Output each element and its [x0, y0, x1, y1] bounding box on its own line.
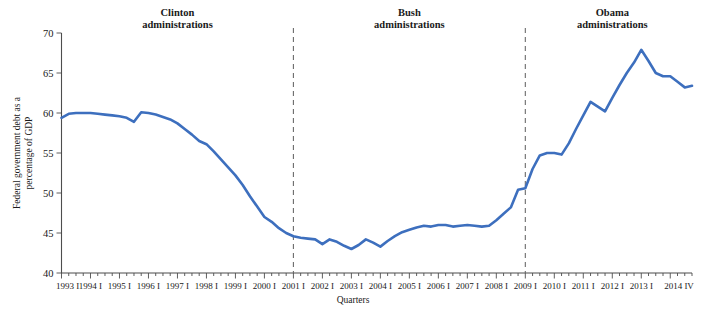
- x-tick-label: 1993 I: [56, 281, 79, 291]
- y-axis-title-line: percentage of GDP: [24, 117, 34, 190]
- y-tick-label: 45: [43, 228, 54, 239]
- x-tick-label: 2007 I: [456, 281, 479, 291]
- x-tick-label: 2003 I: [340, 281, 363, 291]
- x-tick-label: 2000 I: [253, 281, 276, 291]
- debt-series-line: [62, 50, 693, 249]
- y-tick-label: 40: [43, 268, 54, 279]
- x-tick-label: 2005 I: [398, 281, 421, 291]
- x-tick-label: 2011 I: [572, 281, 595, 291]
- administration-dividers: [293, 28, 525, 273]
- admin-label-clinton: Clinton: [161, 7, 195, 18]
- x-axis-title: Quarters: [337, 295, 370, 305]
- y-tick-label: 60: [43, 108, 54, 119]
- x-tick-label: 1998 I: [195, 281, 218, 291]
- admin-label-obama: Obama: [596, 7, 630, 18]
- x-tick-label: 1996 I: [137, 281, 160, 291]
- y-tick-label: 55: [43, 148, 54, 159]
- y-tick-label: 50: [43, 188, 54, 199]
- admin-label-bush: Bush: [398, 7, 421, 18]
- admin-label-bush: administrations: [374, 19, 445, 30]
- y-tick-label: 65: [43, 68, 54, 79]
- x-tick-label: 2010 I: [543, 281, 566, 291]
- line-chart: Federal government debt as apercentage o…: [0, 0, 707, 316]
- x-tick-label: 2008 I: [485, 281, 508, 291]
- x-tick-label: 2006 I: [427, 281, 450, 291]
- x-tick-label: 1994 I: [79, 281, 102, 291]
- x-tick-label: 1999 I: [224, 281, 247, 291]
- x-tick-label: 2012 I: [601, 281, 624, 291]
- x-tick-label: 2013 I: [630, 281, 653, 291]
- x-tick-label: 1995 I: [108, 281, 131, 291]
- x-axis-ticks: [62, 273, 693, 279]
- x-tick-label: 1997 I: [166, 281, 189, 291]
- y-axis-tick-labels: 40455055606570: [43, 28, 54, 279]
- admin-label-obama: administrations: [577, 19, 648, 30]
- admin-label-clinton: administrations: [142, 19, 213, 30]
- x-tick-label: 2002 I: [311, 281, 334, 291]
- y-tick-label: 70: [43, 28, 54, 39]
- x-tick-label: 2004 I: [369, 281, 392, 291]
- x-axis-tick-labels: 1993 I1994 I1995 I1996 I1997 I1998 I1999…: [56, 281, 694, 291]
- figure-container: Federal government debt as apercentage o…: [0, 0, 707, 316]
- y-axis-ticks: [57, 33, 62, 273]
- chart-axes: [62, 33, 693, 273]
- x-tick-label: 2009 I: [514, 281, 537, 291]
- administration-labels: ClintonadministrationsBushadministration…: [142, 7, 647, 30]
- y-axis-title-line: Federal government debt as a: [12, 96, 22, 209]
- x-tick-label: 2001 I: [282, 281, 305, 291]
- x-tick-label: 2014 IV: [664, 281, 694, 291]
